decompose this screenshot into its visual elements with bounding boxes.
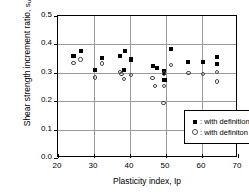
y-tick-label: 0.2 [28, 96, 52, 104]
x-tick-label: 50 [153, 162, 177, 170]
x-axis-title: Plasticity index, Ip [57, 176, 237, 186]
data-point-definition-a [151, 64, 155, 68]
gridline-horizontal [58, 44, 236, 45]
data-point-definition-a [71, 54, 75, 58]
data-point-definition-b [150, 76, 154, 80]
data-point-definition-a [123, 49, 127, 53]
data-point-definition-b [78, 57, 82, 61]
x-axis-tick [238, 154, 239, 158]
data-point-definition-a [79, 49, 83, 53]
data-point-definition-a [155, 66, 159, 70]
gridline-horizontal [58, 73, 236, 74]
chart-legend: : with definition A : with definiton B [184, 110, 249, 144]
x-axis-tick [130, 154, 131, 158]
plot-area: : with definition A : with definiton B [57, 15, 237, 157]
x-tick-label: 40 [117, 162, 141, 170]
x-tick-label: 70 [225, 162, 249, 170]
data-point-definition-b [129, 73, 133, 77]
y-axis-title: Shear strength increment ratio, su(u,b)/… [22, 0, 34, 129]
data-point-definition-a [201, 60, 205, 64]
x-axis-tick [202, 154, 203, 158]
data-point-definition-a [118, 54, 122, 58]
y-axis-tick [54, 73, 58, 74]
gridline-horizontal [58, 101, 236, 102]
data-point-definition-b [100, 61, 104, 65]
legend-text-a: with definition A [204, 117, 249, 126]
gridline-vertical [94, 16, 95, 156]
data-point-definition-a [93, 68, 97, 72]
x-axis-tick [58, 154, 59, 158]
data-point-definition-b [215, 79, 219, 83]
chart-figure: Shear strength increment ratio, su(u,b)/… [0, 0, 249, 195]
x-tick-label: 60 [189, 162, 213, 170]
y-axis-title-formula: su(u,b)/σ'vB [23, 0, 32, 7]
x-axis-tick [166, 154, 167, 158]
data-point-definition-b [161, 101, 165, 105]
legend-label-definition-b: : with definiton B [200, 128, 249, 137]
y-axis-tick [54, 16, 58, 17]
legend-item-definition-a: : with definition A [190, 117, 249, 126]
y-tick-label: 0.3 [28, 68, 52, 76]
x-tick-label: 20 [45, 162, 69, 170]
data-point-definition-b [153, 84, 157, 88]
gridline-vertical [130, 16, 131, 156]
data-point-definition-b [122, 77, 126, 81]
data-point-definition-b [162, 71, 166, 75]
y-axis-tick [54, 130, 58, 131]
data-point-definition-a [215, 62, 219, 66]
y-tick-label: 0.5 [28, 11, 52, 19]
x-axis-tick [94, 154, 95, 158]
data-point-definition-b [162, 84, 166, 88]
filled-square-icon [190, 117, 199, 126]
legend-item-definition-b: : with definiton B [190, 128, 249, 137]
gridline-vertical [166, 16, 167, 156]
data-point-definition-b [186, 71, 190, 75]
y-axis-tick [54, 158, 58, 159]
y-tick-label: 0.0 [28, 153, 52, 161]
legend-separator-b: : [200, 128, 202, 137]
data-point-definition-a [129, 57, 133, 61]
data-point-definition-a [100, 56, 104, 60]
x-tick-label: 30 [81, 162, 105, 170]
data-point-definition-a [215, 55, 219, 59]
data-point-definition-b [93, 75, 97, 79]
legend-separator-a: : [200, 117, 202, 126]
data-point-definition-a [169, 47, 173, 51]
legend-text-b: with definiton B [204, 128, 249, 137]
open-circle-icon [190, 128, 199, 137]
data-point-definition-b [119, 72, 123, 76]
data-point-definition-b [169, 63, 173, 67]
y-tick-label: 0.1 [28, 125, 52, 133]
data-point-definition-a [162, 78, 166, 82]
legend-label-definition-a: : with definition A [200, 117, 249, 126]
y-tick-label: 0.4 [28, 39, 52, 47]
data-point-definition-a [186, 60, 190, 64]
y-axis-tick [54, 44, 58, 45]
data-point-definition-b [71, 61, 75, 65]
y-axis-tick [54, 101, 58, 102]
data-point-definition-b [201, 72, 205, 76]
